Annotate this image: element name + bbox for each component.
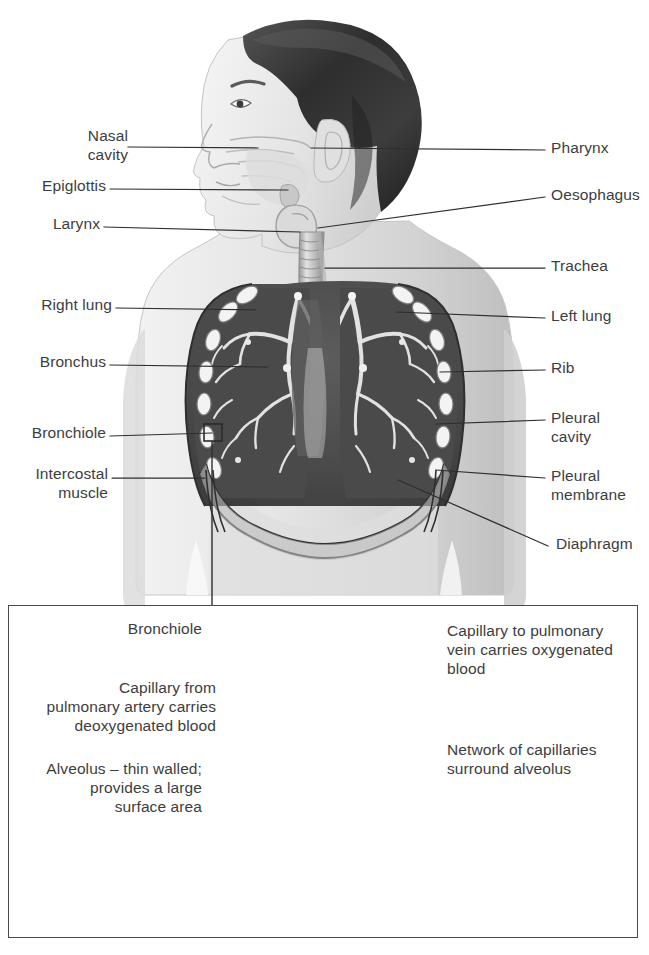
label-intercostal-muscle: Intercostal muscle	[0, 464, 108, 502]
label-diaphragm: Diaphragm	[556, 534, 649, 553]
label-right-lung: Right lung	[0, 295, 112, 314]
label-rib: Rib	[551, 358, 649, 377]
label-capillary-to-vein: Capillary to pulmonary vein carries oxyg…	[447, 621, 643, 678]
label-pleural-membrane: Pleural membrane	[551, 466, 649, 504]
label-pharynx: Pharynx	[551, 138, 649, 157]
label-bronchus: Bronchus	[0, 352, 106, 371]
label-left-lung: Left lung	[551, 306, 649, 325]
label-larynx: Larynx	[0, 214, 100, 233]
label-bronchiole: Bronchiole	[0, 423, 106, 442]
label-epiglottis: Epiglottis	[0, 176, 106, 195]
label-trachea: Trachea	[551, 256, 649, 275]
label-pleural-cavity: Pleural cavity	[551, 408, 649, 446]
label-alveolus: Alveolus – thin walled; provides a large…	[18, 759, 202, 816]
label-nasal-cavity: Nasal cavity	[0, 126, 128, 164]
diagram-stage: Nasal cavity Epiglottis Larynx Right lun…	[0, 0, 649, 955]
label-capillary-from-artery: Capillary from pulmonary artery carries …	[18, 678, 216, 735]
label-bronchiole-detail: Bronchiole	[40, 619, 202, 638]
label-oesophagus: Oesophagus	[551, 185, 649, 204]
label-network-of-capillaries: Network of capillaries surround alveolus	[447, 740, 643, 778]
